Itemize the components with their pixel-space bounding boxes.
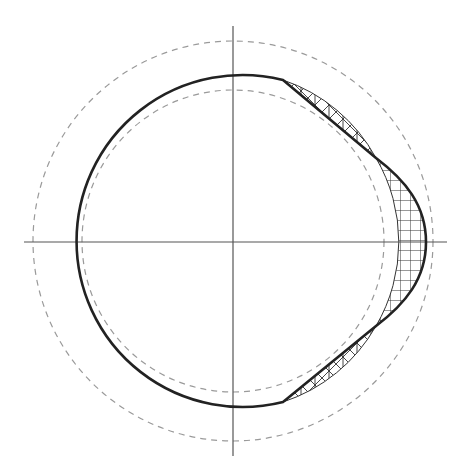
cam-profile-outline xyxy=(77,75,426,407)
cam-profile-diagram xyxy=(0,0,464,476)
